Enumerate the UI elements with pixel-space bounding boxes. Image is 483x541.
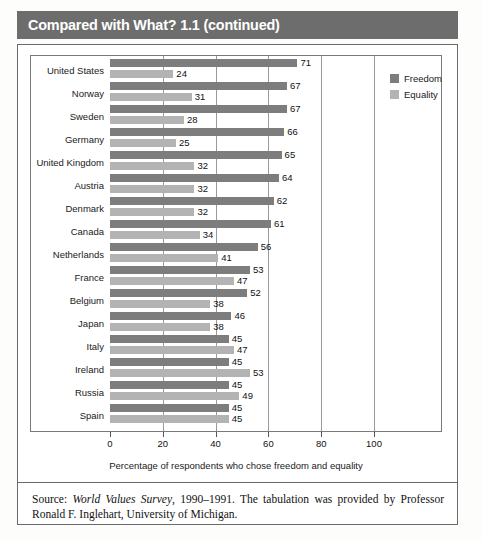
bar-equality xyxy=(110,277,234,285)
bar-value-label: 38 xyxy=(213,323,224,331)
category-label: Denmark xyxy=(65,204,104,214)
legend-item-equality: Equality xyxy=(390,89,460,100)
bar-equality xyxy=(110,369,250,377)
bar-value-label: 32 xyxy=(197,162,208,170)
bar-freedom xyxy=(110,404,229,412)
bar-value-label: 45 xyxy=(232,415,243,423)
category-label: Spain xyxy=(80,411,104,421)
bar-equality xyxy=(110,300,210,308)
gridline-100 xyxy=(374,56,375,431)
bar-value-label: 25 xyxy=(179,139,190,147)
bar-value-label: 41 xyxy=(221,254,232,262)
bar-value-label: 52 xyxy=(250,289,261,297)
bar-value-label: 46 xyxy=(234,312,245,320)
chart-legend: FreedomEquality xyxy=(390,73,460,105)
x-tick-label: 100 xyxy=(366,438,382,449)
bar-freedom xyxy=(110,151,282,159)
category-label: Norway xyxy=(72,89,104,99)
legend-label-equality: Equality xyxy=(404,89,438,100)
bar-value-label: 45 xyxy=(232,404,243,412)
page-title: Compared with What? 1.1 (continued) xyxy=(28,16,280,33)
bar-equality xyxy=(110,323,210,331)
figure-title-bar: Compared with What? 1.1 (continued) xyxy=(17,11,458,39)
bar-value-label: 34 xyxy=(203,231,214,239)
category-label: France xyxy=(74,273,104,283)
x-axis-title: Percentage of respondents who chose free… xyxy=(30,460,442,471)
bar-equality xyxy=(110,93,192,101)
x-tick xyxy=(163,432,164,437)
legend-label-freedom: Freedom xyxy=(404,73,442,84)
bar-value-label: 66 xyxy=(287,128,298,136)
bar-equality xyxy=(110,70,173,78)
category-label: Austria xyxy=(74,181,104,191)
bar-value-label: 32 xyxy=(197,208,208,216)
category-label: Italy xyxy=(87,342,104,352)
bar-value-label: 45 xyxy=(232,358,243,366)
bar-value-label: 62 xyxy=(277,197,288,205)
bar-value-label: 47 xyxy=(237,346,248,354)
bar-value-label: 67 xyxy=(290,105,301,113)
bar-value-label: 47 xyxy=(237,277,248,285)
bar-value-label: 71 xyxy=(300,59,311,67)
bar-value-label: 53 xyxy=(253,369,264,377)
bar-value-label: 45 xyxy=(232,335,243,343)
x-tick xyxy=(374,432,375,437)
bar-equality xyxy=(110,208,194,216)
x-tick-label: 80 xyxy=(316,438,327,449)
bar-value-label: 56 xyxy=(261,243,272,251)
bar-freedom xyxy=(110,266,250,274)
x-tick-label: 0 xyxy=(107,438,112,449)
category-label: United States xyxy=(47,66,104,76)
bar-freedom xyxy=(110,59,297,67)
legend-item-freedom: Freedom xyxy=(390,73,460,84)
x-tick xyxy=(216,432,217,437)
bar-value-label: 61 xyxy=(274,220,285,228)
x-tick xyxy=(110,432,111,437)
bar-equality xyxy=(110,415,229,423)
legend-swatch-freedom xyxy=(390,74,399,83)
bar-equality xyxy=(110,231,200,239)
bar-equality xyxy=(110,162,194,170)
category-label: Russia xyxy=(75,388,104,398)
legend-swatch-equality xyxy=(390,90,399,99)
bar-freedom xyxy=(110,335,229,343)
bar-equality xyxy=(110,139,176,147)
x-tick xyxy=(321,432,322,437)
bar-value-label: 53 xyxy=(253,266,264,274)
bar-freedom xyxy=(110,174,279,182)
bar-equality xyxy=(110,116,184,124)
bar-freedom xyxy=(110,197,274,205)
bar-freedom xyxy=(110,289,247,297)
x-axis: 020406080100 xyxy=(110,432,374,454)
source-prefix: Source: xyxy=(32,493,72,505)
category-label: Netherlands xyxy=(53,250,104,260)
figure-panel: United States7124Norway6731Sweden6728Ger… xyxy=(17,44,458,525)
bar-equality xyxy=(110,254,218,262)
bar-freedom xyxy=(110,82,287,90)
bar-value-label: 32 xyxy=(197,185,208,193)
bar-equality xyxy=(110,392,239,400)
bar-value-label: 64 xyxy=(282,174,293,182)
category-label: Germany xyxy=(65,135,104,145)
x-tick-label: 60 xyxy=(263,438,274,449)
bar-freedom xyxy=(110,312,231,320)
bar-value-label: 49 xyxy=(242,392,253,400)
bar-freedom xyxy=(110,381,229,389)
source-divider xyxy=(18,482,457,483)
bar-freedom xyxy=(110,243,258,251)
bar-freedom xyxy=(110,128,284,136)
source-note: Source: World Values Survey, 1990–1991. … xyxy=(32,492,444,522)
category-label: Japan xyxy=(78,319,104,329)
bar-value-label: 65 xyxy=(285,151,296,159)
bar-freedom xyxy=(110,220,271,228)
bar-value-label: 24 xyxy=(176,70,187,78)
figure: Compared with What? 1.1 (continued) Unit… xyxy=(17,11,458,529)
bar-freedom xyxy=(110,105,287,113)
bar-value-label: 31 xyxy=(195,93,206,101)
bar-equality xyxy=(110,185,194,193)
bar-value-label: 38 xyxy=(213,300,224,308)
gridline-80 xyxy=(321,56,322,431)
source-title: World Values Survey xyxy=(72,493,172,505)
bar-freedom xyxy=(110,358,229,366)
category-label: United Kingdom xyxy=(36,158,104,168)
